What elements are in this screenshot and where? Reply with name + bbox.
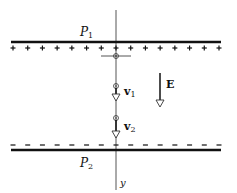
v1-arrow-head-icon (112, 94, 120, 101)
positive-charges (11, 46, 222, 51)
particle-2-dot (115, 117, 117, 119)
v1-label: v1 (123, 85, 136, 99)
v2-label: v2 (123, 120, 136, 134)
y-axis-label: y (119, 177, 126, 188)
e-field-arrow-head-icon (156, 100, 164, 107)
diagram-canvas: P1 v1 v2 E P2 y (0, 0, 237, 193)
particle-1-dot (115, 85, 117, 87)
origin-particle-dot (115, 55, 117, 57)
e-field-label: E (166, 78, 174, 91)
plate-bottom-label: P2 (79, 156, 93, 171)
plate-top-label: P1 (79, 25, 93, 40)
v2-arrow-head-icon (112, 131, 120, 138)
